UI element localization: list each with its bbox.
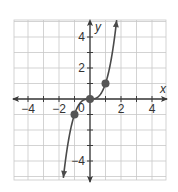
y-tick-label: −4 [71, 154, 85, 168]
function-graph: −4−22442−4 x y 0 [0, 0, 178, 192]
y-tick-label: 4 [78, 30, 85, 44]
x-axis-label: x [159, 82, 167, 96]
data-point [102, 80, 110, 88]
x-tick-label: 4 [149, 102, 156, 116]
data-point [86, 95, 94, 103]
x-tick-label: 2 [118, 102, 125, 116]
origin-label: 0 [78, 101, 85, 115]
x-tick-label: −2 [52, 102, 66, 116]
y-tick-label: 2 [78, 61, 85, 75]
x-tick-label: −4 [21, 102, 35, 116]
y-axis-label: y [94, 20, 102, 34]
